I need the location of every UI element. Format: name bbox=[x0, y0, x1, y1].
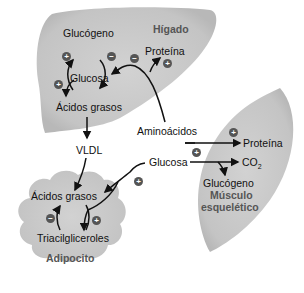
metabolism-diagram: Glucógeno Hígado Proteína Glucosa Ácidos… bbox=[0, 0, 304, 293]
muscle-protein-label: Proteína bbox=[243, 138, 283, 149]
liver-glucose-label: Glucosa bbox=[70, 73, 109, 84]
adipocyte-title: Adipocito bbox=[46, 253, 94, 264]
plus-sign-icon: + bbox=[192, 148, 201, 157]
blood-glucose-label: Glucosa bbox=[149, 157, 188, 168]
muscle-title-line1: Músculo bbox=[210, 190, 253, 201]
plus-sign-icon: + bbox=[229, 128, 238, 137]
liver-fatty-acids-label: Ácidos grasos bbox=[56, 102, 122, 113]
liver-protein-label: Proteína bbox=[145, 46, 185, 57]
adipo-fatty-acids-label: Ácidos grasos bbox=[31, 191, 97, 202]
minus-sign-icon: − bbox=[130, 54, 139, 63]
amino-acids-label: Aminoácidos bbox=[137, 126, 197, 137]
minus-sign-icon: − bbox=[46, 214, 55, 223]
co2-label: CO2 bbox=[242, 157, 262, 170]
muscle-title-line2: esquelético bbox=[201, 202, 259, 213]
muscle-glycogen-label: Glucógeno bbox=[203, 178, 254, 189]
plus-sign-icon: + bbox=[134, 177, 143, 186]
minus-sign-icon: − bbox=[107, 52, 116, 61]
triacylglycerols-label: Triacilgliceroles bbox=[37, 233, 109, 244]
adipocyte-shape bbox=[18, 171, 125, 262]
plus-sign-icon: + bbox=[62, 52, 71, 61]
plus-sign-icon: + bbox=[54, 80, 63, 89]
liver-title: Hígado bbox=[153, 24, 189, 35]
plus-sign-icon: + bbox=[92, 216, 101, 225]
liver-glycogen-label: Glucógeno bbox=[63, 28, 114, 39]
plus-sign-icon: + bbox=[163, 59, 172, 68]
vldl-label: VLDL bbox=[76, 145, 102, 156]
